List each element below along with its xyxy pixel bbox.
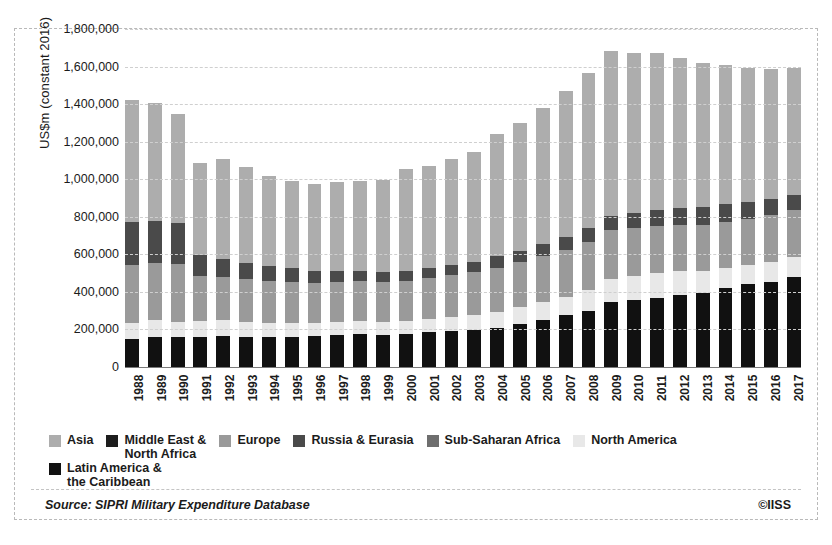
bar-2008[interactable] [582,73,596,367]
footer-divider [31,489,801,490]
bar-segment [422,268,436,278]
y-tick-label: 1,600,000 [19,60,119,73]
bar-2011[interactable] [650,53,664,367]
bar-2004[interactable] [490,134,504,367]
bar-1989[interactable] [148,103,162,367]
bar-segment [582,290,596,311]
legend-item[interactable]: North America [573,433,677,447]
bar-segment [125,323,139,339]
gridline [125,142,801,143]
bar-segment [330,271,344,281]
legend-item[interactable]: Asia [49,433,93,447]
bar-1997[interactable] [330,182,344,367]
bar-segment [399,321,413,334]
bar-segment [582,228,596,242]
y-tick-label: 600,000 [19,248,119,261]
bar-2009[interactable] [604,51,618,367]
bar-segment [216,336,230,367]
bar-segment [148,337,162,367]
bar-segment [787,257,801,277]
bar-2010[interactable] [627,53,641,367]
bar-segment [696,63,710,208]
bar-1999[interactable] [376,180,390,367]
bar-1988[interactable] [125,100,139,367]
bar-segment [239,167,253,263]
bar-segment [741,265,755,285]
bar-1992[interactable] [216,159,230,367]
bar-segment [308,336,322,367]
bar-segment [490,134,504,256]
bar-2006[interactable] [536,108,550,367]
legend-swatch [427,435,439,447]
plot-area: US$m (constant 2016) 0200,000400,000600,… [15,29,819,384]
bar-segment [330,335,344,367]
bar-segment [650,53,664,210]
bar-segment [399,271,413,280]
bar-segment [536,302,550,320]
bar-2002[interactable] [445,159,459,367]
bar-segment [787,277,801,367]
bar-segment [467,330,481,367]
bar-1993[interactable] [239,167,253,367]
copyright-note: ©IISS [758,498,791,512]
bar-2001[interactable] [422,166,436,367]
y-axis-ticks: 0200,000400,000600,000800,0001,000,0001,… [15,29,119,384]
bar-segment [627,276,641,300]
legend-item[interactable]: Sub-Saharan Africa [427,433,561,447]
bar-segment [308,283,322,323]
bar-segment [239,279,253,322]
bar-segment [582,242,596,290]
bar-1991[interactable] [193,163,207,367]
bar-segment [536,320,550,367]
bar-segment [285,337,299,367]
bar-segment [125,100,139,221]
gridline [125,29,801,30]
bar-2016[interactable] [764,69,778,367]
gridline [125,217,801,218]
bar-1998[interactable] [353,181,367,367]
legend-item[interactable]: Europe [219,433,280,447]
bar-segment [353,181,367,271]
bar-segment [422,278,436,319]
bar-2007[interactable] [559,91,573,367]
y-tick-label: 200,000 [19,323,119,336]
bar-segment [513,262,527,307]
bar-segment [787,68,801,196]
y-tick-label: 800,000 [19,211,119,224]
bar-2000[interactable] [399,169,413,367]
bar-segment [467,152,481,262]
bar-1994[interactable] [262,176,276,367]
bar-segment [764,199,778,215]
bar-segment [445,275,459,317]
bar-segment [719,268,733,289]
bar-segment [490,268,504,312]
bar-segment [445,159,459,265]
bar-segment [216,159,230,259]
legend-label: North America [591,433,677,447]
bar-segment [216,320,230,336]
legend-item[interactable]: Latin America &the Caribbean [49,461,162,489]
bar-segment [285,181,299,268]
bar-2003[interactable] [467,152,481,367]
bar-segment [764,262,778,282]
legend-swatch [49,435,61,447]
bar-segment [490,328,504,367]
bar-segment [285,282,299,323]
bar-segment [787,195,801,210]
bar-1995[interactable] [285,181,299,367]
legend-label: Russia & Eurasia [311,433,413,447]
bar-2013[interactable] [696,63,710,367]
bar-segment [719,222,733,268]
legend-item[interactable]: Middle East &North Africa [106,433,206,461]
bar-segment [239,337,253,367]
bar-segment [353,334,367,367]
legend-item[interactable]: Russia & Eurasia [293,433,413,447]
gridline [125,67,801,68]
bar-segment [467,262,481,272]
bar-segment [171,223,185,263]
bar-segment [445,265,459,275]
bar-1996[interactable] [308,184,322,367]
legend-swatch [573,435,585,447]
bar-segment [536,256,550,302]
bar-segment [399,334,413,367]
